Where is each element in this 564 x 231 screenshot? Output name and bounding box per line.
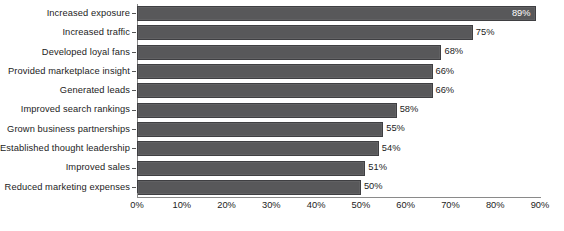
category-label: Improved search rankings <box>21 105 130 114</box>
bar-value-label: 54% <box>382 144 401 153</box>
category-label: Increased exposure <box>47 9 130 18</box>
bar: 68% <box>137 45 441 60</box>
bar-value-label: 66% <box>436 67 455 76</box>
bar: 89% <box>137 6 536 21</box>
x-axis-tick-label: 50% <box>352 201 371 210</box>
y-axis-tick-mark <box>132 148 136 149</box>
bar-row: Reduced marketing expenses50% <box>137 178 540 197</box>
category-label: Established thought leadership <box>0 144 130 153</box>
bar-value-label: 55% <box>386 125 405 134</box>
bar: 66% <box>137 64 433 79</box>
bar-value-label: 75% <box>476 28 495 37</box>
bar: 66% <box>137 83 433 98</box>
bar-chart: Increased exposure89%Increased traffic75… <box>0 0 564 231</box>
y-axis-tick-mark <box>132 187 136 188</box>
bar-value-label: 58% <box>400 105 419 114</box>
bar-row: Improved sales51% <box>137 158 540 177</box>
bar-row: Increased exposure89% <box>137 4 540 23</box>
x-axis-tick-label: 10% <box>172 201 191 210</box>
y-axis-tick-mark <box>132 13 136 14</box>
bar-row: Increased traffic75% <box>137 23 540 42</box>
y-axis-tick-mark <box>132 32 136 33</box>
category-label: Grown business partnerships <box>7 125 130 134</box>
bar-rows: Increased exposure89%Increased traffic75… <box>137 4 540 197</box>
bar: 58% <box>137 103 397 118</box>
bar-value-label: 51% <box>368 163 387 172</box>
plot-area: Increased exposure89%Increased traffic75… <box>137 4 540 197</box>
bar-row: Established thought leadership54% <box>137 139 540 158</box>
bar-row: Developed loyal fans68% <box>137 43 540 62</box>
y-axis-tick-mark <box>132 90 136 91</box>
bar-value-label: 68% <box>444 48 463 57</box>
bar-value-label: 89% <box>512 9 531 18</box>
x-axis-tick-label: 60% <box>396 201 415 210</box>
bar: 50% <box>137 180 361 195</box>
category-label: Provided marketplace insight <box>8 67 130 76</box>
x-axis-tick-label: 80% <box>486 201 505 210</box>
bar: 55% <box>137 122 383 137</box>
y-axis-tick-mark <box>132 168 136 169</box>
category-label: Generated leads <box>60 86 130 95</box>
bar-row: Grown business partnerships55% <box>137 120 540 139</box>
bar-value-label: 50% <box>364 183 383 192</box>
x-axis-tick-label: 0% <box>130 201 143 210</box>
y-axis-tick-mark <box>132 129 136 130</box>
category-label: Increased traffic <box>62 28 130 37</box>
y-axis-tick-mark <box>132 71 136 72</box>
category-label: Improved sales <box>66 163 130 172</box>
x-axis-tick-label: 20% <box>217 201 236 210</box>
x-axis-tick-label: 90% <box>531 201 550 210</box>
bar: 54% <box>137 141 379 156</box>
bar-row: Provided marketplace insight66% <box>137 62 540 81</box>
category-label: Developed loyal fans <box>42 48 130 57</box>
x-axis-tick-labels: 0%10%20%30%40%50%60%70%80%90% <box>137 201 540 215</box>
bar-row: Generated leads66% <box>137 81 540 100</box>
x-axis-tick-label: 40% <box>307 201 326 210</box>
x-axis-tick-label: 70% <box>441 201 460 210</box>
y-axis-tick-mark <box>132 52 136 53</box>
bar: 75% <box>137 25 473 40</box>
bar-value-label: 66% <box>436 86 455 95</box>
x-axis-tick-label: 30% <box>262 201 281 210</box>
bar-row: Improved search rankings58% <box>137 100 540 119</box>
bar: 51% <box>137 161 365 176</box>
y-axis-tick-mark <box>132 110 136 111</box>
category-label: Reduced marketing expenses <box>5 183 130 192</box>
x-axis-line <box>137 197 541 198</box>
